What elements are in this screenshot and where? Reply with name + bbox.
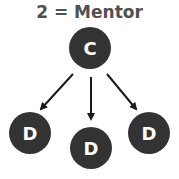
node-mentee-left-label: D <box>23 123 38 144</box>
node-mentor-label: C <box>83 38 96 59</box>
node-mentee-right: D <box>128 112 170 154</box>
node-mentee-right-label: D <box>142 123 157 144</box>
node-mentor: C <box>69 27 111 69</box>
node-mentee-middle: D <box>70 127 112 169</box>
mentor-diagram: C D D D <box>0 0 179 179</box>
node-mentee-middle-label: D <box>84 138 99 159</box>
arrow-to-left <box>41 74 73 109</box>
node-mentee-left: D <box>9 112 51 154</box>
arrow-to-right <box>107 74 136 109</box>
